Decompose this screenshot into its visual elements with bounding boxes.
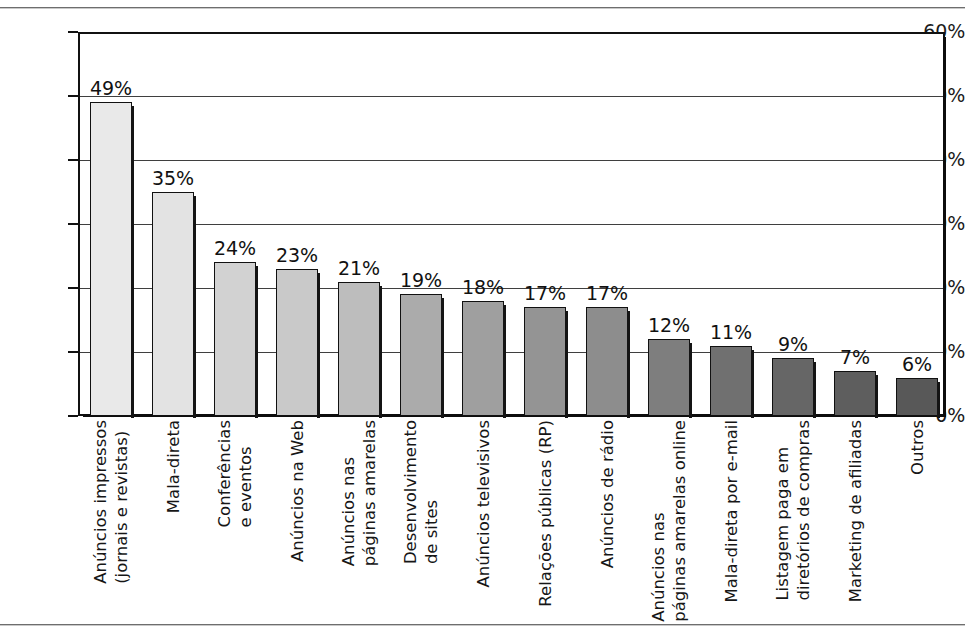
- bar-slot: 17%: [514, 32, 576, 416]
- bar-slot: 49%: [80, 32, 142, 416]
- category-label-line1: Relações públicas (RP): [536, 420, 555, 607]
- x-axis-category-label: Anúncios na Web: [287, 420, 308, 562]
- x-axis-category-labels: Anúncios impressos(jornais e revistas)Ma…: [78, 420, 945, 630]
- bar-slot: 19%: [390, 32, 452, 416]
- category-label-line1: Anúncios impressos: [91, 420, 110, 584]
- bar-value-label: 17%: [570, 284, 644, 303]
- x-axis-category-label: Outros: [907, 420, 928, 475]
- category-label-line1: Mala-direta: [164, 420, 183, 513]
- y-axis-tick-mark: [68, 31, 78, 33]
- category-slot: Desenvolvimentode sites: [390, 420, 452, 620]
- bar-slot: 21%: [328, 32, 390, 416]
- category-slot: Anúncios naspáginas amarelas: [328, 420, 390, 620]
- x-axis-category-label: Listagem paga emdiretórios de compras: [772, 420, 814, 601]
- x-axis-category-label: Conferênciase eventos: [214, 420, 256, 527]
- category-slot: Mala-direta: [142, 420, 204, 620]
- x-axis-category-label: Anúncios impressos(jornais e revistas): [90, 420, 132, 584]
- bar[interactable]: [896, 378, 938, 416]
- y-axis-tick-mark: [68, 287, 78, 289]
- category-slot: Outros: [886, 420, 948, 620]
- bar-value-label: 35%: [136, 169, 210, 188]
- bar[interactable]: [772, 358, 814, 416]
- category-label-line1: Anúncios nas: [339, 457, 358, 566]
- category-slot: Anúncios de rádio: [576, 420, 638, 620]
- category-label-line1: Outros: [908, 420, 927, 475]
- bar-value-label: 6%: [880, 355, 954, 374]
- bar[interactable]: [400, 294, 442, 416]
- category-label-line2: páginas amarelas: [359, 420, 380, 566]
- bar-series: 49%35%24%23%21%19%18%17%17%12%11%9%7%6%: [78, 32, 945, 416]
- bar-value-label: 49%: [74, 79, 148, 98]
- category-label-line1: Mala-direta por e-mail: [722, 420, 741, 603]
- bar-slot: 9%: [762, 32, 824, 416]
- x-axis-category-label: Marketing de afiliadas: [845, 420, 866, 602]
- page-rule-top: [0, 7, 965, 9]
- bar-slot: 7%: [824, 32, 886, 416]
- bar[interactable]: [710, 346, 752, 416]
- category-slot: Anúncios televisivos: [452, 420, 514, 620]
- bar[interactable]: [214, 262, 256, 416]
- bar[interactable]: [276, 269, 318, 416]
- category-slot: Anúncios impressos(jornais e revistas): [80, 420, 142, 620]
- category-slot: Anúncios naspáginas amarelas online: [638, 420, 700, 620]
- category-label-line2: diretórios de compras: [793, 420, 814, 601]
- bar-slot: 18%: [452, 32, 514, 416]
- bar-slot: 24%: [204, 32, 266, 416]
- bar[interactable]: [524, 307, 566, 416]
- bar-chart-figure: 60%50%40%30%20%10%0% 49%35%24%23%21%19%1…: [0, 0, 965, 638]
- bar[interactable]: [648, 339, 690, 416]
- category-slot: Relações públicas (RP): [514, 420, 576, 620]
- bar[interactable]: [152, 192, 194, 416]
- bar-slot: 23%: [266, 32, 328, 416]
- bar[interactable]: [90, 102, 132, 416]
- category-label-line2: e eventos: [235, 420, 256, 527]
- x-axis-category-label: Desenvolvimentode sites: [400, 420, 442, 564]
- category-label-line1: Anúncios televisivos: [474, 420, 493, 588]
- category-slot: Listagem paga emdiretórios de compras: [762, 420, 824, 620]
- x-axis-category-label: Relações públicas (RP): [535, 420, 556, 607]
- x-axis-category-label: Anúncios televisivos: [473, 420, 494, 588]
- category-slot: Marketing de afiliadas: [824, 420, 886, 620]
- x-axis-category-label: Anúncios naspáginas amarelas online: [648, 420, 690, 622]
- bar[interactable]: [834, 371, 876, 416]
- category-label-line1: Desenvolvimento: [401, 420, 420, 564]
- bar[interactable]: [338, 282, 380, 416]
- bar[interactable]: [462, 301, 504, 416]
- category-label-line1: Marketing de afiliadas: [846, 420, 865, 602]
- category-label-line1: Anúncios de rádio: [598, 420, 617, 568]
- category-slot: Conferênciase eventos: [204, 420, 266, 620]
- category-label-line2: de sites: [421, 420, 442, 564]
- category-slot: Mala-direta por e-mail: [700, 420, 762, 620]
- bar-slot: 11%: [700, 32, 762, 416]
- bar[interactable]: [586, 307, 628, 416]
- x-axis-category-label: Mala-direta por e-mail: [721, 420, 742, 603]
- category-label-line1: Listagem paga em: [773, 447, 792, 601]
- bar-slot: 35%: [142, 32, 204, 416]
- category-slot: Anúncios na Web: [266, 420, 328, 620]
- x-axis-category-label: Mala-direta: [163, 420, 184, 513]
- x-axis-category-label: Anúncios naspáginas amarelas: [338, 420, 380, 566]
- category-label-line1: Conferências: [215, 420, 234, 527]
- category-label-line2: páginas amarelas online: [669, 420, 690, 622]
- y-axis-tick-mark: [68, 351, 78, 353]
- bar-slot: 12%: [638, 32, 700, 416]
- category-label-line2: (jornais e revistas): [111, 420, 132, 584]
- category-label-line1: Anúncios nas: [649, 512, 668, 621]
- bar-slot: 17%: [576, 32, 638, 416]
- y-axis-tick-mark: [68, 223, 78, 225]
- category-label-line1: Anúncios na Web: [288, 420, 307, 562]
- y-axis-tick-mark: [68, 159, 78, 161]
- bar-slot: 6%: [886, 32, 948, 416]
- y-axis-tick-mark: [68, 415, 78, 417]
- x-axis-category-label: Anúncios de rádio: [597, 420, 618, 568]
